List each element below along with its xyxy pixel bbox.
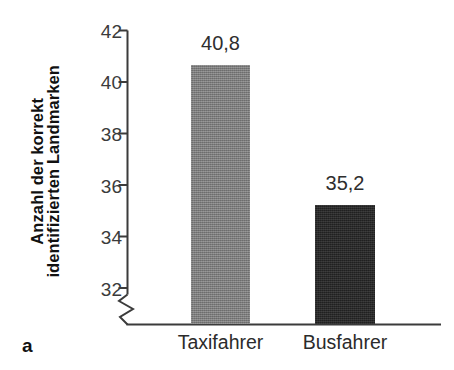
y-axis-title-line-2: identifizierten Landmarken xyxy=(45,65,62,278)
y-axis-tick-labels: 42 40 38 36 34 32 xyxy=(78,0,122,370)
panel-letter: a xyxy=(22,336,33,355)
bar-taxifahrer xyxy=(191,65,250,324)
x-tick-label-busfahrer: Busfahrer xyxy=(290,333,400,353)
y-tick-label-42: 42 xyxy=(101,22,122,41)
y-tick-label-34: 34 xyxy=(101,228,122,247)
value-label-taxifahrer: 40,8 xyxy=(181,33,260,53)
y-tick-label-40: 40 xyxy=(101,73,122,92)
value-label-busfahrer: 35,2 xyxy=(305,173,385,193)
y-axis-title: Anzahl der korrekt identifizierten Landm… xyxy=(14,18,76,324)
y-axis-title-line-1: Anzahl der korrekt xyxy=(29,98,46,245)
y-tick-label-38: 38 xyxy=(101,125,122,144)
figure-panel-a: Anzahl der korrekt identifizierten Landm… xyxy=(0,0,454,370)
y-tick-label-36: 36 xyxy=(101,177,122,196)
x-tick-label-taxifahrer: Taxifahrer xyxy=(161,333,280,353)
y-tick-label-32: 32 xyxy=(101,280,122,299)
bar-busfahrer xyxy=(315,205,375,324)
